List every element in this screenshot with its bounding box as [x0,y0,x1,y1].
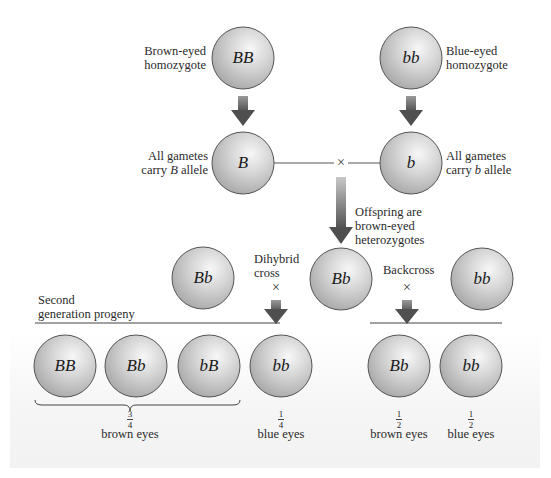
parent-blue-label: Blue-eyed homozygote [446,44,508,72]
punnett-inheritance-diagram: Brown-eyed homozygote BB bb Blue-eyed ho… [0,0,551,478]
backcross-blue-eyes-label: blue eyes [421,427,521,441]
progeny-genotype: Bb [105,356,167,376]
cross-symbol-gametes: × [334,156,348,170]
f1-label: Offspring are brown-eyed heterozygotes [355,205,424,247]
arrow-blue-to-gamete [399,96,423,126]
dihybrid-partner-genotype: Bb [172,268,234,288]
gamete-b-allele: b [380,153,442,173]
dihybrid-cross-symbol: × [269,281,283,295]
backcross-progeny-genotype: bb [440,356,502,376]
arrow-backcross [395,300,419,324]
second-generation-label: Second generation progeny [38,293,135,321]
arrow-brown-to-gamete [231,96,255,126]
backcross-partner-genotype: bb [451,269,513,289]
gamete-blue-label: All gametes carry b allele [446,149,511,177]
progeny-genotype: BB [34,356,96,376]
arrow-gametes-to-f1 [329,177,353,244]
progeny-genotype: bb [250,356,312,376]
parent-blue-genotype: bb [380,48,442,68]
gamete-B-allele: B [212,153,274,173]
f1-genotype: Bb [310,269,372,289]
gamete-brown-label: All gametes carry B allele [108,149,208,177]
backcross-progeny-genotype: Bb [368,356,430,376]
progeny-genotype: bB [178,356,240,376]
backcross-cross-symbol: × [400,281,414,295]
parent-brown-genotype: BB [212,48,274,68]
backcross-label: Backcross [383,263,434,277]
dihybrid-cross-label: Dihybrid cross [254,252,299,280]
outcome-blue-eyes-label: blue eyes [231,427,331,441]
parent-brown-label: Brown-eyed homozygote [110,44,206,72]
arrow-dihybrid-cross [264,300,288,324]
outcome-brown-eyes-label: brown eyes [80,427,180,441]
